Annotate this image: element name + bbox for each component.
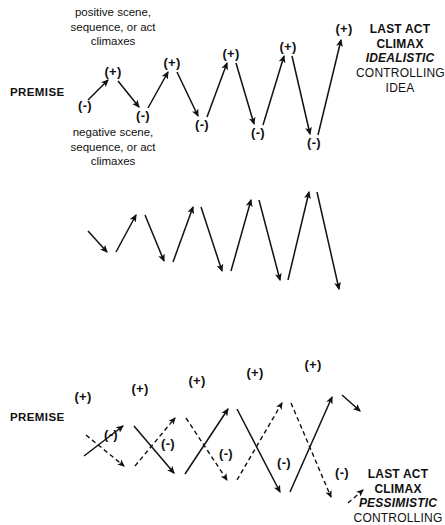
climax-title-line-1: LAST ACT xyxy=(356,22,444,37)
diagram-idealistic: positive scene, sequence, or act climaxe… xyxy=(0,0,445,175)
positive-note-line-1: positive scene, xyxy=(48,5,178,20)
node-sign-d1-7: (-) xyxy=(251,126,265,141)
pessimistic-zigzag-svg xyxy=(0,175,445,370)
ironic-zigzag-svg xyxy=(0,370,445,525)
last-act-climax-idealistic: LAST ACT CLIMAX IDEALISTIC CONTROLLING I… xyxy=(356,22,444,95)
pessimistic-arrow-group xyxy=(88,192,339,289)
node-sign-d1-4: (+) xyxy=(163,56,180,71)
node-sign-d1-6: (+) xyxy=(222,47,239,62)
node-sign-d1-2: (+) xyxy=(104,65,121,80)
climax-kind: IDEALISTIC xyxy=(356,51,444,66)
node-sign-d1-10: (+) xyxy=(335,22,352,37)
climax-title-line-2: CLIMAX xyxy=(356,37,444,52)
premise-label-idealistic: PREMISE xyxy=(10,86,65,99)
ironic-final-arrow xyxy=(342,395,360,411)
negative-scene-note: negative scene, sequence, or act climaxe… xyxy=(48,125,178,169)
node-sign-d1-8: (+) xyxy=(279,40,296,55)
negative-note-line-1: negative scene, xyxy=(48,125,178,140)
climax-controlling: CONTROLLING xyxy=(356,66,444,81)
positive-note-line-3: climaxes xyxy=(48,34,178,49)
positive-scene-note: positive scene, sequence, or act climaxe… xyxy=(48,5,178,49)
negative-note-line-3: climaxes xyxy=(48,154,178,169)
node-sign-d1-3: (-) xyxy=(136,109,150,124)
diagram-pessimistic: PREMISE (+) (-) (+) (-) (+) (-) (+) (-) … xyxy=(0,175,445,370)
climax-idea: IDEA xyxy=(356,81,444,96)
node-sign-d1-9: (-) xyxy=(307,136,321,151)
positive-note-line-2: sequence, or act xyxy=(48,20,178,35)
idealistic-arrow-group xyxy=(88,40,341,135)
ironic-dashed-arrow-group xyxy=(86,403,363,503)
node-sign-d1-5: (-) xyxy=(195,118,209,133)
node-sign-d1-1: (-) xyxy=(78,99,92,114)
negative-note-line-2: sequence, or act xyxy=(48,140,178,155)
diagram-ironic: PREMISE (+) (-) (+) (-) (+) (-) (+) (-) … xyxy=(0,370,445,525)
